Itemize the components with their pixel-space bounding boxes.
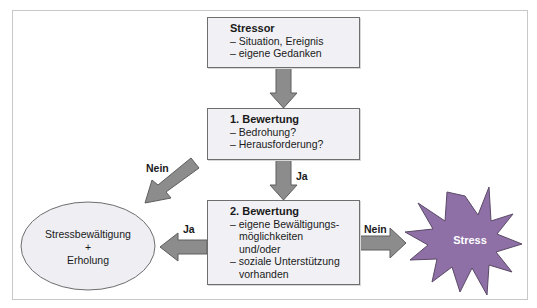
stressor-line: – Situation, Ereignis: [230, 35, 359, 48]
edge-label-nein-right: Nein: [364, 223, 387, 235]
first-appraisal-title: 1. Bewertung: [230, 113, 359, 126]
edge-label-nein-diagonal: Nein: [146, 162, 169, 174]
second-appraisal-line: – eigene Bewältigungs-: [230, 218, 359, 231]
arrow-down-1: [270, 68, 297, 108]
second-appraisal-box: 2. Bewertung – eigene Bewältigungs- mögl…: [207, 200, 360, 285]
edge-label-ja-down: Ja: [296, 170, 308, 182]
second-appraisal-title: 2. Bewertung: [230, 205, 359, 218]
stress-burst-label: Stress: [440, 234, 500, 246]
arrow-down-2: [270, 160, 297, 200]
coping-line: +: [20, 241, 156, 254]
coping-line: Erholung: [20, 254, 156, 267]
second-appraisal-line: möglichkeiten: [230, 230, 359, 243]
first-appraisal-line: – Bedrohung?: [230, 126, 359, 139]
stressor-box: Stressor – Situation, Ereignis – eigene …: [207, 17, 360, 68]
second-appraisal-line: – soziale Unterstützung: [230, 255, 359, 268]
second-appraisal-line: und/oder: [230, 243, 359, 256]
stressor-title: Stressor: [230, 22, 359, 35]
arrow-left-ja: [160, 233, 207, 261]
coping-ellipse: Stressbewältigung + Erholung: [20, 228, 156, 267]
first-appraisal-line: – Herausforderung?: [230, 138, 359, 151]
second-appraisal-line: vorhanden: [230, 268, 359, 281]
first-appraisal-box: 1. Bewertung – Bedrohung? – Herausforder…: [207, 108, 360, 160]
coping-line: Stressbewältigung: [20, 228, 156, 241]
stressor-line: – eigene Gedanken: [230, 47, 359, 60]
edge-label-ja-left: Ja: [183, 223, 195, 235]
